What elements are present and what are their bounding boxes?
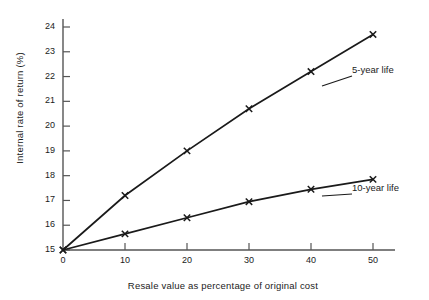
axes (63, 19, 395, 250)
series-line (63, 179, 373, 250)
plot-canvas (0, 0, 429, 300)
data-point-marker (184, 148, 190, 154)
series-label-5-year-life: 5-year life (352, 64, 394, 75)
data-point-marker (122, 192, 128, 198)
data-point-marker (308, 68, 314, 74)
chart-figure: Internal rate of return (%) Resale value… (0, 0, 429, 300)
series-label-10-year-life: 10-year life (352, 182, 399, 193)
data-point-marker (370, 31, 376, 37)
data-series (60, 31, 376, 253)
series-line (63, 34, 373, 250)
annotation-leader-line (322, 76, 352, 86)
annotation-leaders (322, 76, 352, 196)
annotation-leader-line (322, 194, 352, 196)
data-point-marker (246, 106, 252, 112)
